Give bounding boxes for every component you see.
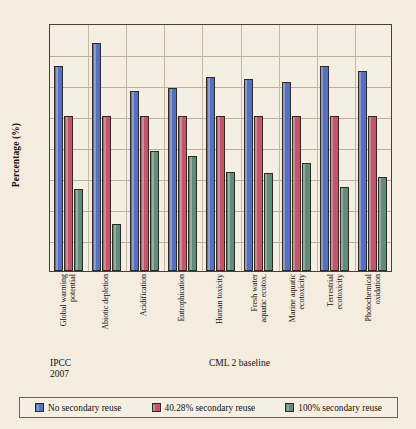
bar-highlight bbox=[114, 225, 116, 270]
bar[interactable] bbox=[358, 71, 367, 271]
bar[interactable] bbox=[54, 66, 63, 271]
bar[interactable] bbox=[264, 173, 273, 271]
bar[interactable] bbox=[378, 177, 387, 271]
bar[interactable] bbox=[254, 116, 263, 271]
x-axis-label-cell: Eutrophication bbox=[163, 274, 201, 354]
x-axis-label-cell: Fresh water aquatic ecotox. bbox=[240, 274, 278, 354]
x-axis-label-cell: Global warming potential bbox=[49, 274, 87, 354]
bar-highlight bbox=[379, 178, 381, 270]
bar-highlight bbox=[331, 117, 333, 270]
bar-highlight bbox=[104, 117, 106, 270]
legend-swatch bbox=[35, 403, 44, 412]
bar-highlight bbox=[76, 190, 78, 270]
bar-highlight bbox=[218, 117, 220, 270]
bar-group bbox=[50, 25, 88, 271]
bar[interactable] bbox=[282, 82, 291, 271]
annotation-cml: CML 2 baseline bbox=[209, 358, 270, 369]
bar-group bbox=[126, 25, 164, 271]
chart-legend: No secondary reuse40.28% secondary reuse… bbox=[19, 397, 398, 418]
x-axis-label: Terrestrial ecotoxicity bbox=[326, 274, 344, 310]
bar[interactable] bbox=[320, 66, 329, 271]
legend-item[interactable]: No secondary reuse bbox=[35, 403, 121, 413]
bar-chart: Percentage (%) 020406080100120140160 Glo… bbox=[0, 0, 416, 429]
bar-highlight bbox=[170, 89, 172, 270]
bar-highlight bbox=[359, 72, 361, 270]
bar[interactable] bbox=[112, 224, 121, 271]
bar[interactable] bbox=[368, 116, 377, 271]
bar-highlight bbox=[228, 173, 230, 270]
bar-group bbox=[88, 25, 126, 271]
bar[interactable] bbox=[64, 116, 73, 271]
bar-groups bbox=[50, 25, 391, 271]
bar[interactable] bbox=[140, 116, 149, 271]
bar[interactable] bbox=[168, 88, 177, 271]
legend-swatch bbox=[285, 403, 294, 412]
bar[interactable] bbox=[330, 116, 339, 271]
bar-highlight bbox=[321, 67, 323, 270]
bar-group bbox=[315, 25, 353, 271]
x-axis-label-cell: Marine aquatic ecotoxicity bbox=[278, 274, 316, 354]
x-axis-label: Abiotic depletion bbox=[102, 274, 111, 330]
y-axis-title: Percentage (%) bbox=[11, 95, 21, 215]
bar[interactable] bbox=[302, 163, 311, 272]
bar-highlight bbox=[132, 92, 134, 270]
bar-highlight bbox=[245, 80, 247, 270]
legend-label: 40.28% secondary reuse bbox=[165, 403, 256, 413]
bar[interactable] bbox=[102, 116, 111, 271]
bar[interactable] bbox=[340, 187, 349, 271]
bar-group bbox=[202, 25, 240, 271]
bar-group bbox=[164, 25, 202, 271]
bar-highlight bbox=[341, 188, 343, 270]
x-axis-label: Photochemical oxidation bbox=[364, 274, 382, 322]
bar-highlight bbox=[255, 117, 257, 270]
x-axis-labels: Global warming potentialAbiotic depletio… bbox=[49, 274, 392, 354]
x-axis-label: Acidification bbox=[140, 274, 149, 316]
bar-group bbox=[277, 25, 315, 271]
bar[interactable] bbox=[244, 79, 253, 271]
bar[interactable] bbox=[226, 172, 235, 271]
x-axis-label: Human toxicity bbox=[216, 274, 225, 324]
x-axis-label: Eutrophication bbox=[178, 274, 187, 322]
legend-label: No secondary reuse bbox=[48, 403, 121, 413]
bar-highlight bbox=[283, 83, 285, 270]
x-axis-label: Global warming potential bbox=[59, 274, 77, 326]
bar-highlight bbox=[152, 152, 154, 270]
bar-highlight bbox=[190, 157, 192, 270]
legend-swatch-highlight bbox=[37, 405, 39, 411]
bar[interactable] bbox=[188, 156, 197, 271]
bar-highlight bbox=[369, 117, 371, 270]
legend-item[interactable]: 100% secondary reuse bbox=[285, 403, 382, 413]
bar-highlight bbox=[303, 164, 305, 271]
bar-highlight bbox=[180, 117, 182, 270]
bar-highlight bbox=[94, 44, 96, 270]
x-axis-label-cell: Human toxicity bbox=[201, 274, 239, 354]
legend-swatch-highlight bbox=[287, 405, 289, 411]
bar[interactable] bbox=[216, 116, 225, 271]
bar-group bbox=[239, 25, 277, 271]
bar-highlight bbox=[56, 67, 58, 270]
bar-highlight bbox=[208, 78, 210, 270]
legend-swatch bbox=[152, 403, 161, 412]
x-axis-label-cell: Acidification bbox=[125, 274, 163, 354]
bar[interactable] bbox=[292, 116, 301, 271]
x-axis-label: Fresh water aquatic ecotox. bbox=[249, 274, 267, 322]
annotation-ipcc: IPCC 2007 bbox=[50, 358, 71, 379]
x-axis-label: Marine aquatic ecotoxicity bbox=[288, 274, 306, 322]
bar[interactable] bbox=[74, 189, 83, 271]
bar[interactable] bbox=[130, 91, 139, 271]
legend-label: 100% secondary reuse bbox=[298, 403, 382, 413]
x-axis-label-cell: Terrestrial ecotoxicity bbox=[316, 274, 354, 354]
bar-group bbox=[353, 25, 391, 271]
bar-highlight bbox=[66, 117, 68, 270]
x-axis-label-cell: Photochemical oxidation bbox=[354, 274, 392, 354]
bar-highlight bbox=[142, 117, 144, 270]
legend-swatch-highlight bbox=[153, 405, 155, 411]
x-axis-label-cell: Abiotic depletion bbox=[87, 274, 125, 354]
legend-item[interactable]: 40.28% secondary reuse bbox=[152, 403, 256, 413]
bar-highlight bbox=[293, 117, 295, 270]
bar[interactable] bbox=[178, 116, 187, 271]
bar[interactable] bbox=[206, 77, 215, 271]
bar[interactable] bbox=[150, 151, 159, 271]
bar[interactable] bbox=[92, 43, 101, 271]
plot-area bbox=[49, 24, 392, 272]
